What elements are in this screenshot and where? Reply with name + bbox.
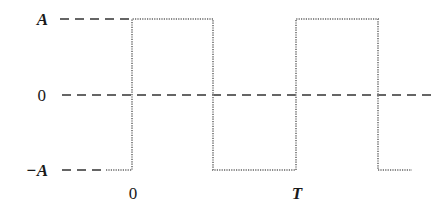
level-a-label: A	[36, 10, 48, 29]
diagram-svg: A 0 −A 0 T	[0, 0, 438, 209]
level-zero-label: 0	[38, 86, 47, 105]
square-wave-diagram: A 0 −A 0 T	[0, 0, 438, 209]
period-label: T	[292, 184, 303, 203]
level-minus-a-label: −A	[26, 161, 48, 180]
time-origin-label: 0	[129, 184, 138, 203]
